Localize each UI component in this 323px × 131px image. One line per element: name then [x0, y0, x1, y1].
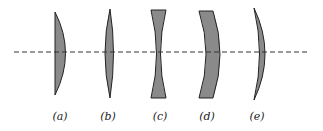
label-e: (e)	[249, 110, 264, 123]
lens-d	[199, 11, 220, 98]
lens-b	[105, 9, 114, 98]
lens-c	[151, 10, 166, 98]
lens-a	[55, 12, 66, 95]
lens-e	[254, 8, 265, 100]
label-d: (d)	[199, 110, 215, 123]
label-a: (a)	[52, 110, 67, 123]
lens-diagram: (a) (b) (c) (d) (e)	[0, 0, 323, 131]
label-b: (b)	[100, 110, 116, 123]
label-c: (c)	[153, 110, 168, 123]
